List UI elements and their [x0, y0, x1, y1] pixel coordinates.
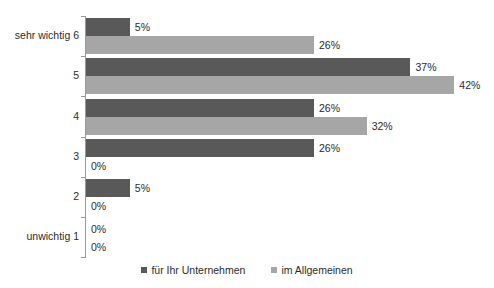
- legend-swatch-icon: [141, 267, 147, 273]
- bar-dark-3: [86, 139, 314, 157]
- chart-legend: für Ihr Unternehmen im Allgemeinen: [0, 264, 494, 276]
- value-label-dark-6: 5%: [135, 18, 150, 36]
- category-label-6: sehr wichtig 6: [0, 29, 79, 41]
- bar-dark-4: [86, 99, 314, 117]
- axis-tick: [81, 56, 85, 57]
- value-label-light-3: 0%: [91, 157, 106, 175]
- legend-item-fuer-ihr-unternehmen[interactable]: für Ihr Unternehmen: [141, 264, 245, 276]
- axis-tick: [81, 217, 85, 218]
- category-label-1: unwichtig 1: [0, 230, 79, 242]
- legend-swatch-icon: [271, 267, 277, 273]
- category-label-5: 5: [0, 69, 79, 81]
- bar-dark-5: [86, 58, 410, 76]
- value-label-dark-4: 26%: [319, 99, 340, 117]
- bar-dark-2: [86, 179, 130, 197]
- axis-tick: [81, 257, 85, 258]
- axis-tick: [81, 96, 85, 97]
- bar-light-5: [86, 76, 454, 94]
- value-label-dark-2: 5%: [135, 179, 150, 197]
- value-label-light-1: 0%: [91, 238, 106, 256]
- axis-tick: [81, 137, 85, 138]
- category-label-2: 2: [0, 190, 79, 202]
- category-label-3: 3: [0, 150, 79, 162]
- bar-dark-6: [86, 18, 130, 36]
- value-label-dark-3: 26%: [319, 139, 340, 157]
- category-label-4: 4: [0, 110, 79, 122]
- axis-tick: [81, 177, 85, 178]
- value-label-light-4: 32%: [372, 117, 393, 135]
- value-label-dark-5: 37%: [415, 58, 436, 76]
- legend-label: im Allgemeinen: [281, 264, 352, 276]
- value-label-light-6: 26%: [319, 36, 340, 54]
- legend-label: für Ihr Unternehmen: [151, 264, 245, 276]
- bar-light-6: [86, 36, 314, 54]
- value-label-light-2: 0%: [91, 197, 106, 215]
- value-label-light-5: 42%: [459, 76, 480, 94]
- value-label-dark-1: 0%: [91, 220, 106, 238]
- bar-chart: sehr wichtig 6 5 4 3 2 unwichtig 1 5% 26…: [0, 0, 494, 288]
- axis-tick: [81, 16, 85, 17]
- legend-item-im-allgemeinen[interactable]: im Allgemeinen: [271, 264, 352, 276]
- bar-light-4: [86, 117, 367, 135]
